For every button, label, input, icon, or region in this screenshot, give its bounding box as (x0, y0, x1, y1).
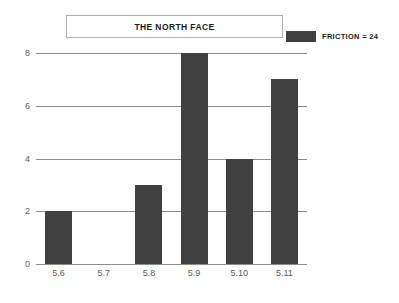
x-axis-tick-labels: 5.65.75.85.95.105.11 (36, 268, 307, 288)
bar (45, 211, 72, 264)
x-tick-label: 5.7 (97, 268, 110, 278)
bar-chart: THE NORTH FACE FRICTION = 24 02468 5.65.… (0, 0, 399, 303)
chart-legend: FRICTION = 24 (286, 31, 378, 42)
y-tick-label: 0 (6, 259, 30, 269)
y-tick-label: 8 (6, 48, 30, 58)
bar (135, 185, 162, 264)
x-tick-label: 5.10 (230, 268, 248, 278)
chart-title: THE NORTH FACE (134, 22, 214, 32)
bar (226, 159, 253, 265)
x-tick-label: 5.8 (143, 268, 156, 278)
legend-entry-label: FRICTION = 24 (322, 32, 378, 41)
x-tick-label: 5.11 (276, 268, 293, 278)
plot-area (36, 53, 307, 264)
x-tick-label: 5.6 (52, 268, 65, 278)
bars-layer (36, 53, 307, 264)
y-tick-label: 4 (6, 154, 30, 164)
bar (271, 79, 298, 264)
y-tick-label: 6 (6, 101, 30, 111)
gridline-0 (36, 264, 307, 265)
legend-swatch-icon (286, 31, 316, 42)
y-tick-label: 2 (6, 206, 30, 216)
x-tick-label: 5.9 (188, 268, 201, 278)
bar (181, 53, 208, 264)
chart-title-box: THE NORTH FACE (66, 15, 283, 38)
